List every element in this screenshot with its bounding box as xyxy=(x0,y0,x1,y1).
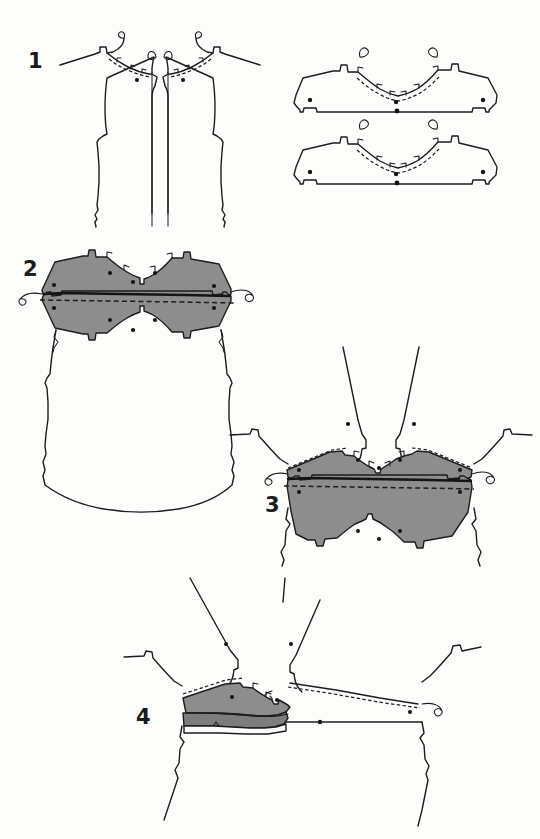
marking-dot xyxy=(377,537,381,541)
marking-dot xyxy=(153,271,157,275)
marking-dot xyxy=(356,458,360,462)
marking-dot xyxy=(412,422,416,426)
marking-dot xyxy=(297,468,301,472)
marking-dot xyxy=(346,422,350,426)
marking-dot xyxy=(398,458,402,462)
marking-dot xyxy=(458,490,462,494)
marking-dot xyxy=(230,695,234,699)
marking-dot xyxy=(398,529,402,533)
step-number-4: 4 xyxy=(136,705,151,729)
marking-dot xyxy=(275,698,279,702)
marking-dot xyxy=(458,468,462,472)
step-number-1: 1 xyxy=(28,49,43,73)
marking-dot xyxy=(131,328,135,332)
marking-dot xyxy=(394,172,398,176)
marking-dot xyxy=(108,271,112,275)
marking-dot xyxy=(52,306,56,310)
marking-dot xyxy=(131,280,135,284)
marking-dot xyxy=(395,109,400,114)
marking-dot xyxy=(181,78,185,82)
marking-dot xyxy=(308,170,312,174)
step-number-3: 3 xyxy=(265,493,280,517)
marking-dot xyxy=(212,306,216,310)
pattern-illustration: .ln { fill:none; stroke:#1d1d1d; stroke-… xyxy=(0,0,540,839)
marking-dot xyxy=(395,181,400,186)
marking-dot xyxy=(135,78,139,82)
marking-dot xyxy=(318,720,322,724)
marking-dot xyxy=(481,170,485,174)
marking-dot xyxy=(394,100,398,104)
marking-dot xyxy=(356,529,360,533)
marking-dot xyxy=(108,318,112,322)
marking-dot xyxy=(153,318,157,322)
step-number-2: 2 xyxy=(23,257,38,281)
marking-dot xyxy=(481,98,485,102)
illustration-page: .ln { fill:none; stroke:#1d1d1d; stroke-… xyxy=(0,0,540,839)
marking-dot xyxy=(308,98,312,102)
marking-dot xyxy=(297,490,301,494)
marking-dot xyxy=(52,283,56,287)
marking-dot xyxy=(377,466,381,470)
marking-dot xyxy=(289,642,293,646)
marking-dot xyxy=(212,284,216,288)
marking-dot xyxy=(408,710,412,714)
marking-dot xyxy=(224,642,228,646)
